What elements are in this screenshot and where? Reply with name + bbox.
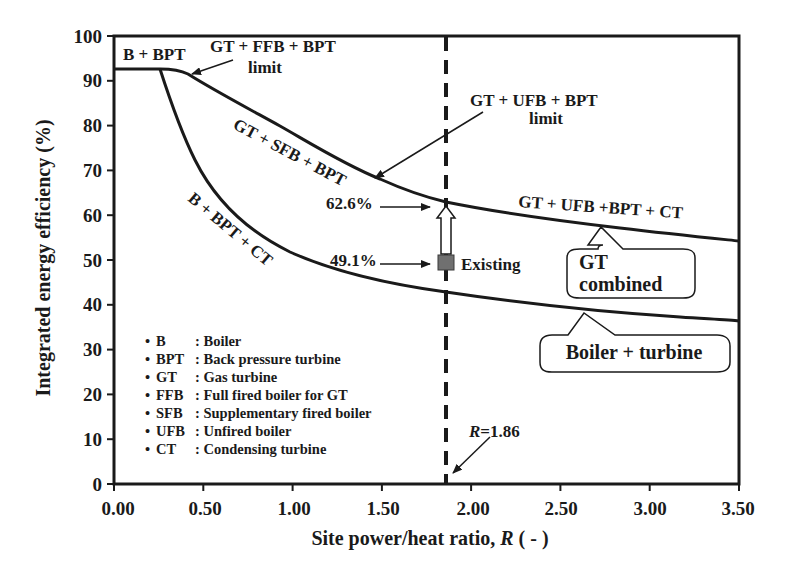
legend-item: • BPT : Back pressure turbine	[145, 351, 341, 367]
arrow-gt-ufb-bpt	[375, 112, 483, 178]
label-gt-sfb-bpt: GT + SFB + BPT	[230, 115, 350, 191]
arrow-r-value	[453, 437, 490, 473]
svg-text:: Boiler: : Boiler	[195, 333, 242, 349]
legend-item: • SFB : Supplementary fired boiler	[145, 405, 372, 421]
legend-item: • CT : Condensing turbine	[145, 441, 327, 457]
svg-text:B: B	[156, 333, 166, 349]
label-gt-ffb-bpt: GT + FFB + BPT	[210, 37, 336, 56]
label-gt-ufb-bpt-limit: limit	[529, 109, 563, 128]
chart-canvas: 0 10 20 30 40 50 60 70 80 90 100 0.00 0.…	[0, 0, 790, 576]
y-tick-label: 40	[83, 294, 102, 315]
svg-text:CT: CT	[156, 441, 176, 457]
svg-text:•: •	[145, 333, 150, 349]
svg-text:FFB: FFB	[156, 387, 184, 403]
y-tick-label: 10	[83, 429, 102, 450]
y-tick-label: 70	[83, 160, 102, 181]
svg-text:•: •	[145, 441, 150, 457]
svg-text:•: •	[145, 351, 150, 367]
improvement-up-arrow	[437, 206, 455, 254]
svg-text:SFB: SFB	[156, 405, 183, 421]
legend-item: • GT : Gas turbine	[145, 369, 278, 385]
y-tick-label: 90	[83, 70, 102, 91]
svg-text:BPT: BPT	[156, 351, 185, 367]
y-tick-label: 80	[83, 115, 102, 136]
x-tick-label: 0.00	[101, 498, 134, 519]
y-tick-label: 100	[74, 26, 103, 47]
svg-text:•: •	[145, 387, 150, 403]
x-tick-label: 3.50	[721, 498, 754, 519]
label-r-value: R=1.86	[468, 422, 520, 441]
svg-text:: Condensing turbine: : Condensing turbine	[195, 441, 327, 457]
svg-text:UFB: UFB	[156, 423, 185, 439]
y-tick-label: 30	[83, 339, 102, 360]
legend-item: • B : Boiler	[145, 333, 242, 349]
label-62-6-percent: 62.6%	[326, 194, 373, 213]
y-axis-title: Integrated energy efficiency (%)	[32, 119, 55, 396]
svg-text:: Supplementary fired boiler: : Supplementary fired boiler	[195, 405, 372, 421]
x-tick-label: 1.50	[366, 498, 399, 519]
label-49-1-percent: 49.1%	[330, 251, 377, 270]
svg-text:•: •	[145, 423, 150, 439]
x-axis-title: Site power/heat ratio, R ( - )	[311, 527, 548, 550]
x-tick-label: 2.00	[456, 498, 489, 519]
x-tick-labels: 0.00 0.50 1.00 1.50 2.00 2.50 3.00 3.50	[101, 498, 754, 519]
x-tick-label: 0.50	[188, 498, 221, 519]
arrow-gt-ffb-bpt	[192, 60, 233, 74]
svg-text:: Gas turbine: : Gas turbine	[195, 369, 278, 385]
callout-gt-combined-line2: combined	[579, 273, 662, 295]
label-gt-ffb-bpt-limit: limit	[248, 58, 282, 77]
label-b-bpt: B + BPT	[123, 45, 186, 64]
y-tick-label: 20	[83, 384, 102, 405]
y-tick-label: 60	[83, 205, 102, 226]
x-tick-label: 2.50	[544, 498, 577, 519]
existing-point-marker	[438, 255, 454, 270]
x-tick-label: 1.00	[277, 498, 310, 519]
callout-gt-combined-line1: GT	[579, 251, 609, 273]
svg-text:•: •	[145, 369, 150, 385]
legend-item: • UFB : Unfired boiler	[145, 423, 292, 439]
callout-boiler-turbine-label: Boiler + turbine	[566, 341, 703, 363]
svg-text:: Full fired boiler for GT: : Full fired boiler for GT	[195, 387, 348, 403]
svg-text:: Back pressure turbine: : Back pressure turbine	[195, 351, 341, 367]
x-tick-label: 3.00	[633, 498, 666, 519]
svg-text:GT: GT	[156, 369, 177, 385]
y-tick-label: 50	[83, 250, 102, 271]
label-b-bpt-ct: B + BPT + CT	[184, 189, 276, 271]
label-existing: Existing	[461, 255, 521, 274]
legend-item: • FFB : Full fired boiler for GT	[145, 387, 348, 403]
svg-text:: Unfired boiler: : Unfired boiler	[195, 423, 292, 439]
y-tick-labels: 0 10 20 30 40 50 60 70 80 90 100	[74, 26, 103, 495]
svg-text:•: •	[145, 405, 150, 421]
y-tick-label: 0	[93, 474, 103, 495]
label-gt-ufb-bpt: GT + UFB + BPT	[470, 91, 598, 110]
legend: • B : Boiler • BPT : Back pressure turbi…	[145, 333, 372, 457]
